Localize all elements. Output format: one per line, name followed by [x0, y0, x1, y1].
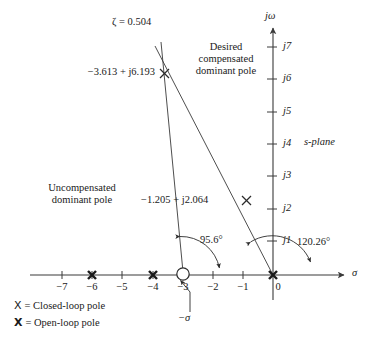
s-plane-label: s-plane	[304, 136, 335, 148]
y-tick-label-j5: j5	[283, 105, 291, 117]
y-tick-label-j3: j3	[283, 169, 291, 181]
x-tick-label-minus6: −6	[78, 281, 106, 293]
x-tick-label-minus3: −3	[169, 281, 197, 293]
imaginary-axis-label: jω	[265, 10, 275, 22]
y-tick-label-j6: j6	[283, 72, 291, 84]
closed-loop-pole-markers	[160, 69, 251, 205]
x-tick-label-minus2: −2	[199, 281, 227, 293]
s-plane-root-locus-figure: ζ = 0.504 −3.613 + j6.193 Desired compen…	[0, 0, 377, 340]
legend-closed-loop-text: = Closed-loop pole	[25, 300, 106, 311]
negative-sigma-label: −σ	[178, 312, 190, 324]
angle-95-6-label: 95.6°	[200, 234, 223, 246]
desired-pole-line-2: compensated	[178, 53, 274, 65]
breakaway-point-circle	[177, 268, 189, 280]
desired-pole-annotation: Desired compensated dominant pole	[178, 41, 274, 77]
legend-closed-loop-marker-icon: X	[14, 299, 22, 312]
legend-open-loop-pole: X = Open-loop pole	[14, 316, 100, 329]
uncompensated-pole-line-1: Uncompensated	[32, 182, 132, 194]
y-tick-label-j2: j2	[283, 202, 291, 214]
damping-ratio-label: ζ = 0.504	[112, 16, 151, 28]
desired-pole-line-1: Desired	[178, 41, 274, 53]
x-tick-label-minus5: −5	[108, 281, 136, 293]
angle-120-26-label: 120.26°	[297, 236, 330, 248]
uncompensated-pole-value-label: −1.205 + j2.064	[141, 194, 208, 206]
x-tick-label-minus7: −7	[48, 281, 76, 293]
x-tick-label-minus1: −1	[229, 281, 257, 293]
desired-pole-line-3: dominant pole	[178, 65, 274, 77]
compensated-pole-value-label: −3.613 + j6.193	[40, 66, 155, 78]
legend-open-loop-text: = Open-loop pole	[25, 317, 99, 328]
real-axis-label: σ	[352, 267, 357, 279]
uncompensated-pole-annotation: Uncompensated dominant pole	[32, 182, 132, 206]
y-tick-label-j1: j1	[283, 234, 291, 246]
x-tick-label-zero: 0	[264, 281, 292, 293]
legend-closed-loop-pole: X = Closed-loop pole	[14, 299, 105, 312]
y-tick-label-j7: j7	[283, 40, 291, 52]
x-tick-label-minus4: −4	[139, 281, 167, 293]
closed-loop-pole-uncompensated	[242, 196, 251, 205]
uncompensated-pole-line-2: dominant pole	[32, 194, 132, 206]
y-tick-label-j4: j4	[283, 137, 291, 149]
legend-open-loop-marker-icon: X	[14, 316, 22, 329]
